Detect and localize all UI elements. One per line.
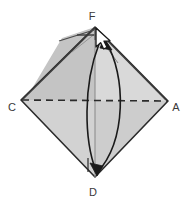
folding-diagram-canvas: F A D C	[0, 0, 190, 204]
vertex-label-A: A	[172, 101, 180, 113]
diagram-svg: F A D C	[0, 0, 190, 204]
vertex-label-D: D	[89, 186, 97, 198]
vertex-label-F: F	[89, 10, 96, 22]
vertex-label-C: C	[8, 101, 16, 113]
